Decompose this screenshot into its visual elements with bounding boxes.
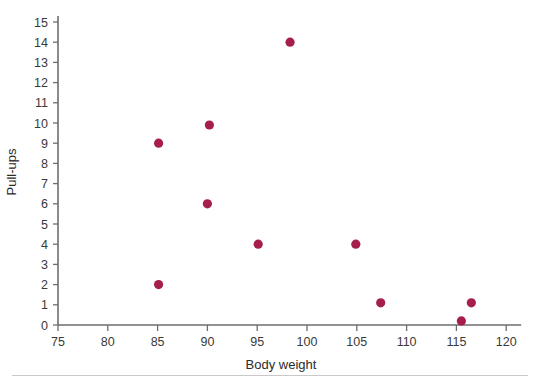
- y-tick-label: 13: [34, 56, 48, 70]
- data-point: [376, 298, 385, 307]
- x-axis-title: Body weight: [246, 357, 317, 372]
- y-tick-label: 3: [41, 258, 48, 272]
- y-tick-label: 7: [41, 177, 48, 191]
- x-tick-label: 75: [51, 335, 65, 349]
- data-point: [457, 316, 466, 325]
- y-axis-title: Pull-ups: [4, 148, 19, 195]
- data-point-series: [154, 38, 476, 326]
- y-tick-label: 9: [41, 137, 48, 151]
- data-point: [154, 139, 163, 148]
- x-axis-ticks: [58, 325, 506, 331]
- y-tick-label: 11: [35, 96, 48, 110]
- data-point: [203, 199, 212, 208]
- data-point: [467, 298, 476, 307]
- y-axis-tick-labels: 0123456789101112131415: [34, 16, 48, 333]
- y-tick-label: 0: [41, 319, 48, 333]
- y-tick-label: 8: [41, 157, 48, 171]
- x-tick-label: 95: [250, 335, 264, 349]
- y-tick-label: 10: [34, 117, 48, 131]
- y-axis: 0123456789101112131415: [34, 16, 58, 333]
- data-point: [205, 120, 214, 129]
- y-tick-label: 15: [34, 16, 48, 30]
- data-point: [351, 240, 360, 249]
- x-axis-tick-labels: 7580859095100105110115120: [51, 335, 517, 349]
- y-tick-label: 2: [41, 278, 48, 292]
- y-tick-label: 4: [41, 238, 48, 252]
- x-tick-label: 85: [151, 335, 165, 349]
- y-tick-label: 6: [41, 197, 48, 211]
- data-point: [254, 240, 263, 249]
- x-tick-label: 100: [297, 335, 318, 349]
- data-point: [285, 38, 294, 47]
- x-tick-label: 115: [446, 335, 466, 349]
- scatter-plot-figure: 0123456789101112131415 75808590951001051…: [0, 0, 541, 384]
- y-tick-label: 1: [41, 298, 48, 312]
- data-point: [154, 280, 163, 289]
- x-tick-label: 105: [346, 335, 367, 349]
- y-tick-label: 14: [34, 36, 48, 50]
- scatter-plot-canvas: 0123456789101112131415 75808590951001051…: [0, 0, 541, 384]
- y-tick-label: 12: [34, 76, 48, 90]
- x-tick-label: 90: [200, 335, 214, 349]
- x-axis: 7580859095100105110115120: [51, 325, 521, 349]
- x-tick-label: 80: [101, 335, 115, 349]
- y-tick-label: 5: [41, 218, 48, 232]
- x-tick-label: 120: [496, 335, 517, 349]
- x-tick-label: 110: [397, 335, 417, 349]
